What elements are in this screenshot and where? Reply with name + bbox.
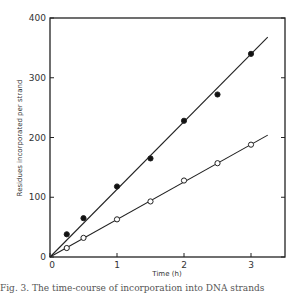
y-tick-label: 300 (29, 73, 46, 83)
y-tick-label: 100 (29, 192, 46, 202)
x-tick-label: 1 (114, 260, 120, 270)
filled-data-point (248, 51, 253, 56)
x-tick-label: 3 (248, 260, 254, 270)
x-tick-label: 0 (49, 260, 55, 270)
open-data-point (114, 217, 119, 222)
filled-data-point (181, 118, 186, 123)
open-data-point (248, 142, 253, 147)
filled-data-point (148, 156, 153, 161)
y-tick-label: 200 (29, 133, 46, 143)
x-axis-label: Time (h) (151, 270, 182, 278)
y-tick-label: 0 (40, 252, 46, 262)
fit-lines (50, 37, 268, 257)
line-chart: 01002003004000123 Time (h) Residues inco… (0, 0, 298, 283)
open-data-point (148, 199, 153, 204)
y-tick-label: 400 (29, 13, 46, 23)
fit-line (50, 37, 268, 257)
filled-data-point (81, 216, 86, 221)
y-axis-label: Residues incorporated per strand (16, 80, 24, 197)
open-data-point (215, 161, 220, 166)
filled-data-point (64, 232, 69, 237)
open-data-point (181, 178, 186, 183)
filled-data-point (215, 92, 220, 97)
open-data-point (64, 245, 69, 250)
figure-caption: Fig. 3. The time-course of incorporation… (0, 283, 298, 293)
x-tick-label: 2 (181, 260, 187, 270)
filled-data-point (114, 184, 119, 189)
open-data-point (81, 235, 86, 240)
data-points (64, 51, 253, 250)
